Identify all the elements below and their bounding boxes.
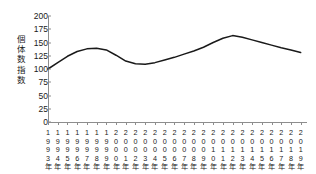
y-tick-mark [48,42,51,43]
series-polyline [48,36,301,69]
line-chart: 個 体 数 指 数 0255075100125150175200 1993年19… [0,0,316,174]
y-tick-mark [48,69,51,70]
y-tick-mark [48,16,51,17]
y-tick-mark [48,108,51,109]
y-tick-mark [48,95,51,96]
y-tick-mark [48,82,51,83]
y-tick-mark [48,122,51,123]
y-tick-mark [48,29,51,30]
y-tick-mark [48,55,51,56]
series-line-plot [0,0,316,174]
